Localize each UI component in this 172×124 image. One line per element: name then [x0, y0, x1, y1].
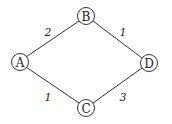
node-d-label: D [144, 57, 154, 71]
node-b-label: B [82, 10, 91, 24]
edge-c-d-weight: 3 [120, 91, 127, 104]
edge-c-d [93, 68, 142, 103]
edge-a-b [26, 21, 79, 57]
node-a: A [12, 54, 29, 71]
edge-a-b-weight: 2 [44, 26, 52, 39]
weighted-graph: B A D C 2 1 1 3 [0, 0, 172, 124]
edge-a-c-weight: 1 [45, 91, 52, 104]
edge-a-c [26, 67, 79, 103]
node-a-label: A [15, 56, 25, 70]
node-c-label: C [81, 102, 90, 116]
node-d: D [141, 55, 158, 72]
node-c: C [78, 100, 95, 117]
node-b: B [78, 8, 95, 25]
edge-b-d [93, 21, 142, 58]
edge-b-d-weight: 1 [120, 26, 127, 39]
